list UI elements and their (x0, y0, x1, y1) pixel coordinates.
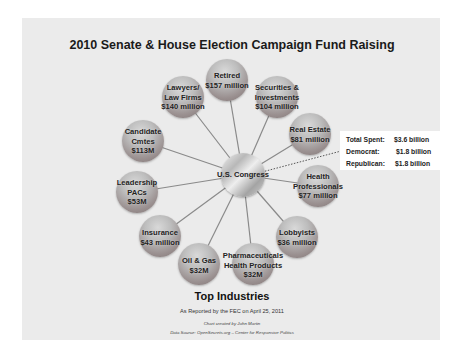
label-line: Lawyers/ (153, 83, 213, 93)
label-line: Investments (247, 93, 307, 103)
node-leadership-label: Leadership PACs $53M (107, 178, 167, 207)
node-oil-gas-label: Oil & Gas $32M (169, 256, 229, 275)
label-amount: $140 million (153, 102, 213, 112)
node-lawyers-label: Lawyers/ Law Firms $140 million (153, 83, 213, 112)
label-line: Law Firms (153, 93, 213, 103)
label-amount: $36 million (267, 238, 327, 248)
label-amount: $113M (113, 146, 173, 156)
footer-reported: As Reported by the FEC on April 25, 2011 (0, 308, 464, 314)
label-line: Leadership (107, 178, 167, 188)
callout-value: $3.6 billion (394, 136, 429, 143)
label-line: Lobbyists (267, 228, 327, 238)
label-amount: $81 million (280, 135, 340, 145)
label-line: PACs (107, 188, 167, 198)
node-lobbyists-label: Lobbyists $36 million (267, 228, 327, 247)
label-line: Retired (197, 71, 257, 81)
label-amount: $53M (107, 197, 167, 207)
node-health-label: Health Professionals $77 million (288, 172, 348, 201)
label-line: Health (288, 172, 348, 182)
label-amount: $77 million (288, 191, 348, 201)
callout-total: Total Spent: $3.6 billion (346, 136, 385, 143)
label-line: Oil & Gas (169, 256, 229, 266)
callout-value: $1.8 billion (396, 148, 431, 155)
label-line: Securities & (247, 83, 307, 93)
footer-source: Data Source: OpenSecrets.org – Center fo… (0, 330, 464, 335)
callout-key: Democrat: (346, 148, 380, 155)
label-line: Professionals (288, 182, 348, 192)
callout-value: $1.8 billion (395, 160, 430, 167)
label-line: Insurance (130, 228, 190, 238)
callout-key: Total Spent: (346, 136, 385, 143)
label-amount: $43 million (130, 238, 190, 248)
callout-democrat: Democrat: $1.8 billion (346, 148, 380, 155)
node-insurance-label: Insurance $43 million (130, 228, 190, 247)
label-line: Cmtes (113, 137, 173, 147)
label-line: Candidate (113, 127, 173, 137)
label-line: Real Estate (280, 125, 340, 135)
hub-label: U.S. Congress (205, 170, 281, 179)
node-candidate-label: Candidate Cmtes $113M (113, 127, 173, 156)
label-amount: $104 million (247, 102, 307, 112)
footer-heading: Top Industries (0, 290, 464, 302)
callout-key: Republican: (346, 160, 385, 167)
footer-credit: Chart created by John Martin (0, 321, 464, 326)
label-amount: $32M (169, 266, 229, 276)
node-securities-label: Securities & Investments $104 million (247, 83, 307, 112)
totals-callout: Total Spent: $3.6 billion Democrat: $1.8… (340, 131, 464, 170)
callout-republican: Republican: $1.8 billion (346, 160, 385, 167)
node-real-estate-label: Real Estate $81 million (280, 125, 340, 144)
